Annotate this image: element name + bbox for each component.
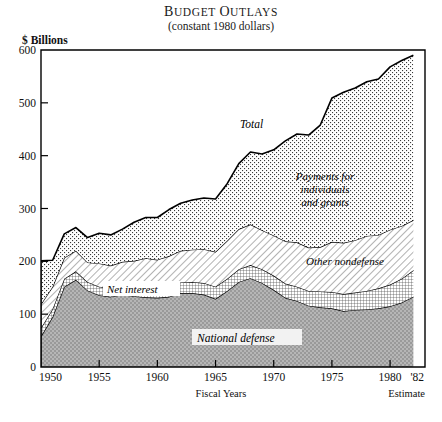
plot-area (41, 50, 425, 367)
x-tick-label: 1965 (204, 371, 227, 383)
series-label-national-defense-text: National defense (196, 332, 275, 345)
x-tick-label: 1960 (146, 371, 169, 383)
y-tick-label: 100 (19, 308, 37, 320)
series-label-total: Total (240, 118, 263, 130)
series-label-other-nondefense: Other nondefense (306, 255, 384, 267)
y-tick-label: 200 (19, 255, 37, 267)
y-tick-label: 500 (19, 97, 37, 109)
y-tick-label: 400 (19, 150, 37, 162)
chart-title: BUDGET OUTLAYS (164, 4, 278, 19)
y-tick-label: 0 (30, 361, 36, 373)
chart-subtitle: (constant 1980 dollars) (168, 20, 274, 33)
series-label-payments-line1: Payments for (295, 170, 355, 182)
series-label-payments: Payments for individuals and grants (295, 170, 355, 208)
series-label-payments-line3: and grants (301, 196, 348, 208)
series-label-payments-line2: individuals (301, 183, 350, 195)
budget-outlays-chart: BUDGET OUTLAYS (constant 1980 dollars) $… (0, 0, 442, 422)
x-tick-label: 1980 (379, 371, 402, 383)
x-tick-label: 1950 (39, 371, 62, 383)
chart-title-block: BUDGET OUTLAYS (constant 1980 dollars) (164, 4, 278, 33)
series-label-national-defense: National defense (192, 329, 302, 345)
x-tick-label-82: '82 (410, 371, 424, 383)
series-label-net-interest-text: Net interest (106, 283, 159, 295)
estimate-note: Estimate (388, 388, 425, 399)
x-tick-label: 1975 (320, 371, 343, 383)
series-label-net-interest: Net interest (103, 281, 180, 296)
y-tick-label: 300 (19, 203, 37, 215)
x-tick-label: 1970 (262, 371, 285, 383)
chart-svg: BUDGET OUTLAYS (constant 1980 dollars) $… (0, 0, 442, 422)
y-tick-label: 600 (19, 44, 37, 56)
x-axis-label: Fiscal Years (196, 388, 247, 399)
x-tick-label: 1955 (88, 371, 111, 383)
